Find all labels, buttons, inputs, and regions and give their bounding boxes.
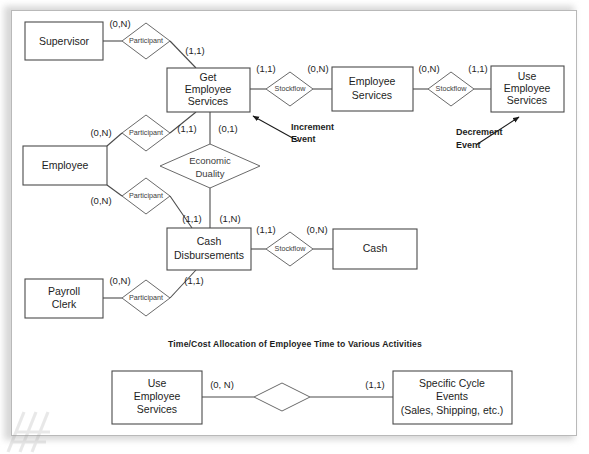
cardinality-bottom-left: (0, N): [210, 379, 234, 390]
entity-use-emp-svcs-b-label-l3: Services: [137, 403, 177, 415]
cardinality-sup-to-part: (0,N): [109, 18, 130, 29]
entity-specific-cycle-events: Specific Cycle Events (Sales, Shipping, …: [393, 371, 512, 424]
cardinality-part-clerk-to-cashdisb: (1,1): [184, 275, 204, 286]
entity-supervisor-label: Supervisor: [39, 35, 90, 47]
entity-cash-disb-label-l2: Disbursements: [174, 249, 244, 261]
entity-use-emp-svcs-label-l3: Services: [507, 94, 547, 106]
er-diagram-canvas: Supervisor Employee Payroll Clerk Get Em…: [0, 0, 589, 454]
cardinality-part-to-get: (1,1): [185, 45, 205, 56]
relationship-participant-employee-bottom-label: Participant: [129, 191, 163, 200]
entity-employee-label: Employee: [42, 159, 89, 171]
annotation-increment-event-label-l2: Event: [291, 134, 316, 144]
relationship-bottom-unlabeled: [254, 383, 310, 411]
cardinality-emp-to-part-bot: (0,N): [90, 195, 111, 206]
relationship-economic-duality-label-l1: Economic: [189, 155, 231, 166]
cardinality-cashdisb-to-sf3: (1,1): [256, 224, 276, 235]
relationship-participant-payroll-clerk-label: Participant: [129, 293, 163, 302]
relationship-participant-employee-top-label: Participant: [129, 128, 163, 137]
relationship-economic-duality-label-l2: Duality: [195, 168, 224, 179]
entity-emp-svcs-label-l2: Services: [352, 89, 392, 101]
entity-use-emp-svcs-b-label-l1: Use: [148, 377, 167, 389]
entity-specific-cycle-label-l2: Events: [436, 390, 468, 402]
entity-get-emp-svcs-label-l3: Services: [188, 95, 228, 107]
cardinality-empsvc-to-sf2: (0,N): [418, 63, 439, 74]
entity-emp-svcs-label-l1: Employee: [349, 75, 396, 87]
cardinality-sf1-to-empsvc: (0,N): [307, 63, 328, 74]
entity-get-employee-services: Get Employee Services: [167, 68, 250, 112]
entity-use-emp-svcs-label-l1: Use: [518, 70, 537, 82]
cardinality-sf2-to-usesvc: (1,1): [468, 63, 488, 74]
relationship-stockflow-3-label: Stockflow: [275, 244, 307, 253]
cardinality-bottom-right: (1,1): [365, 379, 385, 390]
entity-cash-disb-label-l1: Cash: [197, 235, 222, 247]
entity-specific-cycle-label-l1: Specific Cycle: [419, 377, 485, 389]
relationship-stockflow-2-label: Stockflow: [436, 84, 468, 93]
cardinality-part-top-to-get: (1,1): [177, 123, 197, 134]
annotation-increment-event-label-l1: Increment: [291, 122, 334, 132]
relationship-stockflow-2: Stockflow: [428, 72, 474, 106]
cardinality-emp-to-part-top: (0,N): [90, 127, 111, 138]
entity-supervisor: Supervisor: [25, 22, 103, 60]
relationship-stockflow-1-label: Stockflow: [275, 84, 307, 93]
relationship-economic-duality: Economic Duality: [160, 144, 260, 188]
cardinality-sf3-to-cash: (0,N): [306, 224, 327, 235]
entity-employee-services: Employee Services: [332, 67, 413, 111]
entity-cash: Cash: [333, 229, 417, 269]
entity-payroll-clerk: Payroll Clerk: [25, 279, 103, 318]
entity-use-employee-services: Use Employee Services: [491, 66, 564, 112]
entity-specific-cycle-label-l3: (Sales, Shipping, etc.): [401, 404, 504, 416]
relationship-participant-supervisor-label: Participant: [129, 36, 163, 45]
section-title: Time/Cost Allocation of Employee Time to…: [168, 339, 422, 349]
entity-cash-disbursements: Cash Disbursements: [167, 228, 251, 270]
cardinality-clerk-to-part: (0,N): [109, 275, 130, 286]
relationship-participant-employee-top: Participant: [122, 115, 170, 151]
entity-cash-label: Cash: [363, 242, 388, 254]
entity-get-emp-svcs-label-l1: Get: [200, 71, 217, 83]
relationship-stockflow-1: Stockflow: [266, 72, 313, 106]
cardinality-get-to-duality: (0,1): [218, 123, 238, 134]
annotation-increment-event: Increment Event: [253, 116, 334, 144]
cardinality-part-bot-to-cashdisb: (1,1): [182, 213, 202, 224]
relationship-stockflow-3: Stockflow: [266, 232, 313, 266]
entity-use-emp-svcs-label-l2: Employee: [504, 82, 551, 94]
annotation-decrement-event: Decrement Event: [456, 117, 519, 150]
cardinality-duality-to-cashdisb: (1,N): [219, 213, 240, 224]
entity-use-employee-services-bottom: Use Employee Services: [112, 371, 202, 424]
annotation-decrement-event-label-l2: Event: [456, 140, 481, 150]
entity-use-emp-svcs-b-label-l2: Employee: [134, 390, 181, 402]
cardinality-get-to-sf1: (1,1): [256, 63, 276, 74]
annotation-decrement-event-label-l1: Decrement: [456, 127, 503, 137]
entity-payroll-clerk-label-l2: Clerk: [52, 298, 77, 310]
entity-employee: Employee: [23, 146, 107, 185]
relationship-participant-employee-bottom: Participant: [122, 178, 170, 214]
entity-payroll-clerk-label-l1: Payroll: [48, 285, 80, 297]
entity-get-emp-svcs-label-l2: Employee: [185, 83, 232, 95]
